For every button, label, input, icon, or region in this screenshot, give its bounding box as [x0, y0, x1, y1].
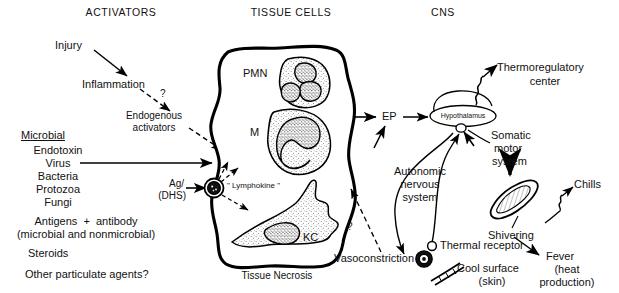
label-somatic-line1: Somatic [491, 129, 531, 141]
label-steroids: Steroids [28, 247, 68, 259]
label-tissue-necrosis: Tissue Necrosis [242, 270, 313, 281]
fever-pathogenesis-diagram: ACTIVATORS TISSUE CELLS CNS Injury Infla… [0, 0, 619, 293]
column-header-activators: ACTIVATORS [86, 7, 157, 19]
label-inflammation: Inflammation [82, 78, 145, 90]
label-somatic-line2: motor [494, 142, 522, 154]
label-hypothalamus: Hypothalamus [441, 112, 486, 120]
label-antigens-parenthetical: (microbial and nonmicrobial) [17, 228, 155, 240]
arrow-shivering-to-chills [545, 187, 573, 223]
label-fever-line1: Fever [546, 250, 574, 262]
label-autonomic-line2: nervous [400, 178, 439, 190]
label-autonomic-line1: Autonomic [394, 165, 446, 177]
label-thermoregulatory-line1: Thermoregulatory [497, 61, 584, 73]
label-kupffer-cell: KC [303, 231, 318, 243]
label-vasoconstriction: Vasoconstriction [334, 252, 414, 264]
thermal-receptor-node-icon [428, 242, 437, 251]
label-other-particulate-agents: Other particulate agents? [25, 268, 149, 280]
label-ep: EP [382, 110, 397, 122]
label-endogenous-activators-line1: Endogenous [126, 110, 182, 121]
label-injury: Injury [55, 39, 82, 51]
label-fever-line3: production) [539, 276, 594, 288]
skeletal-muscle-fiber-icon [491, 181, 538, 219]
arrow-up-to-ep [374, 126, 385, 148]
label-microbial-heading: Microbial [21, 129, 65, 141]
label-autonomic-line3: system [403, 191, 438, 203]
label-somatic-line3: system [492, 155, 527, 167]
label-thermoregulatory-line2: center [530, 75, 561, 87]
arrow-up-into-hypothalamus [464, 132, 474, 146]
column-header-tissue-cells: TISSUE CELLS [251, 7, 332, 19]
label-pmn: PMN [243, 67, 267, 79]
label-cool-surface-line2: (skin) [479, 275, 506, 287]
arrow-injury-to-inflammation [94, 50, 127, 76]
lymphocyte-icon [205, 179, 224, 198]
label-endogenous-activators-line2: activators [133, 122, 176, 133]
leader-muscle-to-shivering [512, 216, 518, 228]
label-lymphokine: " Lymphokine " [227, 182, 280, 191]
pmn-cell-icon [280, 57, 330, 107]
macrophage-cell-icon [268, 109, 331, 174]
label-antigens-antibody: Antigens + antibody [34, 215, 137, 227]
arrow-hypothalamus-to-thermoreg [476, 65, 497, 105]
constricted-vessel-icon [416, 251, 432, 267]
label-microbial-fungi: Fungi [44, 196, 72, 208]
column-header-cns: CNS [431, 7, 455, 19]
label-microbial-bacteria: Bacteria [38, 170, 78, 182]
label-cool-surface-line1: Cool surface [457, 262, 519, 274]
label-microbial-virus: Virus [46, 157, 71, 169]
label-microbial-protozoa: Protozoa [36, 183, 80, 195]
question-mark-endogenous: ? [160, 88, 166, 99]
label-ag-dhs-line1: Ag/ [169, 178, 184, 189]
label-shivering: Shivering [488, 229, 534, 241]
label-microbial-endotoxin: Endotoxin [34, 144, 83, 156]
label-chills: Chills [574, 178, 601, 190]
label-macrophage: M [250, 126, 259, 138]
label-ag-dhs-line2: (DHS) [158, 190, 186, 201]
diagram-vector-layer [0, 0, 619, 293]
label-fever-line2: (heat [554, 263, 579, 275]
question-mark-vasoconstriction: ? [347, 221, 353, 232]
